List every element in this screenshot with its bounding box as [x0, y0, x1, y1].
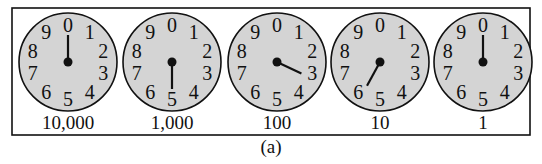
- dial-label: 1,000: [151, 112, 194, 133]
- pointer-hub-icon: [376, 58, 385, 67]
- pointer-hub-icon: [273, 58, 282, 67]
- dial-number: 2: [410, 40, 420, 62]
- dial-number: 7: [443, 62, 453, 84]
- dial-number: 2: [98, 40, 108, 62]
- dial-number: 2: [307, 40, 317, 62]
- dial-number: 9: [456, 21, 466, 43]
- meter-dial: 012345678910,000: [19, 13, 117, 133]
- dial-number: 9: [145, 21, 155, 43]
- figure-caption: (a): [0, 136, 542, 158]
- dial-number: 8: [132, 40, 142, 62]
- dial-number: 0: [63, 14, 73, 36]
- dial-number: 5: [272, 88, 282, 110]
- dial-number: 0: [375, 14, 385, 36]
- dial-number: 9: [353, 21, 363, 43]
- dial-number: 0: [478, 14, 488, 36]
- dial-number: 1: [500, 21, 510, 43]
- dial-label: 1: [478, 112, 488, 133]
- dial-number: 7: [237, 62, 247, 84]
- dial-number: 8: [443, 40, 453, 62]
- dial-number: 7: [132, 62, 142, 84]
- dial-number: 0: [167, 14, 177, 36]
- pointer-hub-icon: [479, 58, 488, 67]
- dial-number: 3: [410, 62, 420, 84]
- dial-number: 1: [85, 21, 95, 43]
- dial-number: 3: [98, 62, 108, 84]
- dial-number: 5: [167, 88, 177, 110]
- meter-dial: 0123456789100: [228, 13, 326, 133]
- dial-number: 6: [41, 81, 51, 103]
- dial-number: 4: [500, 81, 510, 103]
- dial-number: 6: [250, 81, 260, 103]
- dial-number: 6: [456, 81, 466, 103]
- dial-number: 7: [340, 62, 350, 84]
- dial-number: 4: [85, 81, 95, 103]
- dial-number: 1: [294, 21, 304, 43]
- dial-number: 3: [307, 62, 317, 84]
- dial-number: 8: [237, 40, 247, 62]
- dial-number: 4: [294, 81, 304, 103]
- dial-number: 3: [202, 62, 212, 84]
- dial-number: 5: [478, 88, 488, 110]
- dial-number: 7: [28, 62, 38, 84]
- dial-number: 5: [63, 88, 73, 110]
- meter-dial: 01234567891: [434, 13, 532, 133]
- dial-number: 6: [145, 81, 155, 103]
- pointer-hub-icon: [168, 58, 177, 67]
- meter-dials-figure: 012345678910,00001234567891,000012345678…: [0, 0, 542, 164]
- dial-label: 100: [263, 112, 292, 133]
- dial-number: 3: [513, 62, 523, 84]
- dial-number: 9: [41, 21, 51, 43]
- dial-number: 1: [397, 21, 407, 43]
- dial-number: 2: [513, 40, 523, 62]
- dial-number: 1: [189, 21, 199, 43]
- dial-number: 8: [28, 40, 38, 62]
- dial-label: 10,000: [42, 112, 94, 133]
- dial-number: 2: [202, 40, 212, 62]
- dial-number: 4: [189, 81, 199, 103]
- dial-number: 9: [250, 21, 260, 43]
- dial-number: 6: [353, 81, 363, 103]
- dial-number: 8: [340, 40, 350, 62]
- dial-number: 0: [272, 14, 282, 36]
- pointer-hub-icon: [64, 58, 73, 67]
- dial-label: 10: [371, 112, 390, 133]
- meter-dial: 012345678910: [331, 13, 429, 133]
- dial-number: 5: [375, 88, 385, 110]
- meter-dial: 01234567891,000: [123, 13, 221, 133]
- dial-number: 4: [397, 81, 407, 103]
